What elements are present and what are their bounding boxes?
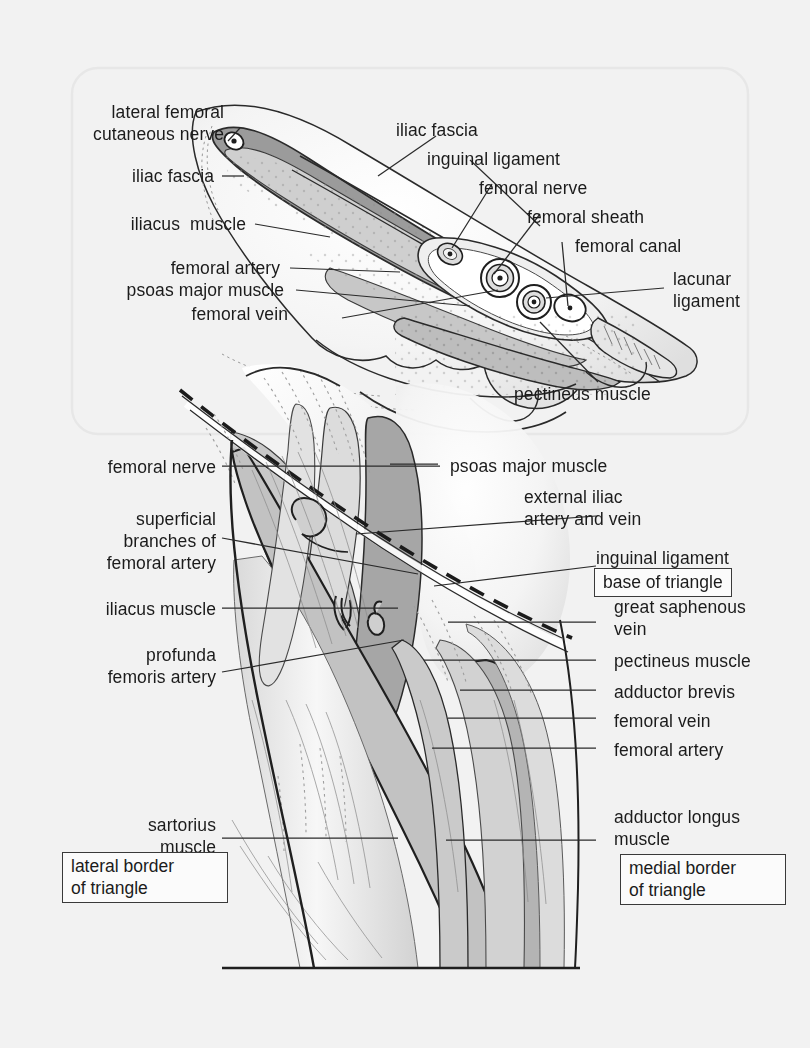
label-femoral-artery-bottom: femoral artery xyxy=(614,739,723,761)
label-inguinal-ligament-bottom: inguinal ligament xyxy=(596,547,729,569)
label-great-saphenous-vein: great saphenous vein xyxy=(614,596,746,640)
label-femoral-sheath: femoral sheath xyxy=(527,206,644,228)
label-external-iliac-artery-and-vein: external iliac artery and vein xyxy=(524,486,641,530)
label-profunda-femoris-artery: profunda femoris artery xyxy=(58,644,216,688)
label-femoral-nerve-bottom: femoral nerve xyxy=(60,456,216,478)
label-base-of-triangle: base of triangle xyxy=(594,568,732,597)
label-superficial-branches-of-femoral-artery: superficial branches of femoral artery xyxy=(60,508,216,574)
label-psoas-major-muscle-top: psoas major muscle xyxy=(72,279,284,301)
label-medial-border-of-triangle: medial border of triangle xyxy=(620,854,786,905)
label-lacunar-ligament: lacunar ligament xyxy=(673,268,740,312)
label-adductor-longus-muscle: adductor longus muscle xyxy=(614,806,740,850)
label-lateral-border-of-triangle: lateral border of triangle xyxy=(62,852,228,903)
label-pectineus-muscle-bottom: pectineus muscle xyxy=(614,650,751,672)
label-iliacus-muscle-bottom: iliacus muscle xyxy=(60,598,216,620)
label-lateral-femoral-cutaneous-nerve: lateral femoral cutaneous nerve xyxy=(86,101,224,145)
label-iliacus-muscle-top: iliacus muscle xyxy=(68,213,246,235)
label-femoral-nerve-top: femoral nerve xyxy=(479,177,587,199)
label-femoral-vein-top: femoral vein xyxy=(140,303,288,325)
label-iliac-fascia-right: iliac fascia xyxy=(396,119,478,141)
label-pectineus-muscle-top: pectineus muscle xyxy=(514,383,651,405)
femoral-vein-structure xyxy=(517,285,551,319)
label-inguinal-ligament-top: inguinal ligament xyxy=(427,148,560,170)
label-femoral-canal: femoral canal xyxy=(575,235,681,257)
label-femoral-vein-bottom: femoral vein xyxy=(614,710,711,732)
label-femoral-artery-top: femoral artery xyxy=(112,257,280,279)
label-psoas-major-muscle-bottom: psoas major muscle xyxy=(450,455,607,477)
femoral-artery-structure xyxy=(481,259,519,297)
label-adductor-brevis: adductor brevis xyxy=(614,681,735,703)
label-iliac-fascia-left: iliac fascia xyxy=(84,165,214,187)
